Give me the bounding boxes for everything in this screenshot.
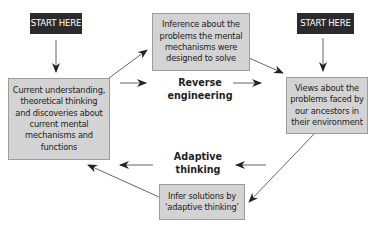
arrow-views-to-infer bbox=[249, 133, 315, 202]
arrow-infer-to-current bbox=[88, 165, 159, 197]
arrow-inference-to-views bbox=[249, 58, 283, 73]
arrow-current-to-inference bbox=[109, 50, 147, 78]
label-adaptive-thinking: Adaptive thinking bbox=[160, 151, 236, 176]
node-infer-solutions: Infer solutions by ‘adaptive thinking’ bbox=[159, 184, 245, 220]
start-here-right: START HERE bbox=[297, 13, 354, 34]
label-reverse-engineering: Reverse engineering bbox=[160, 77, 240, 102]
start-here-left: START HERE bbox=[30, 13, 82, 34]
node-inference: Inference about the problems the mental … bbox=[152, 13, 250, 71]
node-current-understanding: Current understanding, theoretical think… bbox=[8, 78, 110, 160]
node-views-ancestors: Views about the problems faced by our an… bbox=[286, 77, 368, 134]
